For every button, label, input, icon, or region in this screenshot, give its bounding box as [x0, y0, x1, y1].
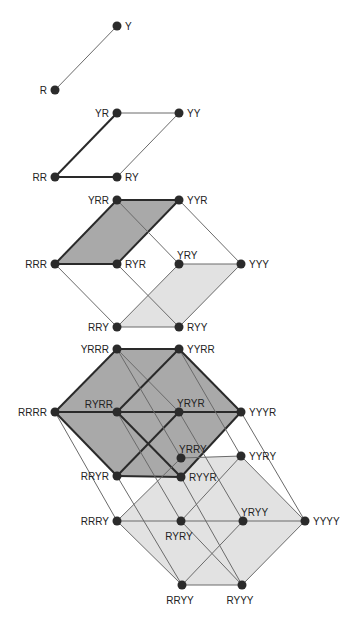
node-label-YRRR: YRRR [81, 344, 109, 355]
node-label-YY: YY [187, 108, 201, 119]
node-YY [175, 109, 184, 118]
node-Y [113, 22, 122, 31]
edge-RR-YR [55, 113, 117, 177]
node-RRYR [113, 472, 122, 481]
node-label-RRRR: RRRR [18, 407, 47, 418]
node-label-YYYR: YYYR [249, 407, 276, 418]
node-RRYY [178, 581, 187, 590]
node-label-YRYY: YRYY [241, 507, 268, 518]
node-RYYY [238, 581, 247, 590]
node-RRRR [51, 408, 60, 417]
node-label-RYYR: RYYR [189, 472, 217, 483]
node-label-Y: Y [125, 21, 132, 32]
node-YYYR [237, 408, 246, 417]
node-label-YYRY: YYRY [249, 451, 276, 462]
node-label-RYRR: RYRR [85, 399, 113, 410]
node-RRY [113, 323, 122, 332]
node-label-RRYY: RRYY [166, 595, 194, 606]
node-YRR [113, 196, 122, 205]
node-label-YYR: YYR [187, 195, 208, 206]
node-RYRY [177, 517, 186, 526]
node-YYYY [301, 517, 310, 526]
node-label-YRYR: YRYR [177, 398, 205, 409]
node-label-YRY: YRY [177, 250, 198, 261]
node-label-YRRY: YRRY [179, 444, 207, 455]
node-RRRY [113, 517, 122, 526]
node-label-YYRR: YYRR [187, 344, 215, 355]
node-label-YYYY: YYYY [313, 516, 340, 527]
face-light [117, 264, 241, 327]
node-YYRR [175, 345, 184, 354]
node-YYY [237, 260, 246, 269]
node-RRR [51, 260, 60, 269]
node-label-RY: RY [125, 172, 139, 183]
node-label-RRY: RRY [88, 322, 109, 333]
edge-R-Y [55, 26, 117, 90]
node-label-RYYY: RYYY [226, 595, 253, 606]
node-label-RYR: RYR [125, 259, 146, 270]
node-R [51, 86, 60, 95]
node-label-RRRY: RRRY [81, 516, 109, 527]
node-RYYR [177, 473, 186, 482]
node-label-RRYR: RRYR [81, 471, 109, 482]
node-label-YRR: YRR [88, 195, 109, 206]
node-label-RYRY: RYRY [165, 531, 193, 542]
node-label-RYY: RYY [187, 322, 208, 333]
node-YYR [175, 196, 184, 205]
edge-RYYR-RRYR [117, 476, 181, 477]
face-dark [55, 200, 179, 264]
edge-RRR-RRY [55, 264, 117, 327]
hypercube-diagram: RYRRRYYRYYRRRRYRYRRYYRRRYRYYYRYYYYRRRRYR… [0, 0, 359, 621]
node-YYRY [237, 452, 246, 461]
node-label-YYY: YYY [249, 259, 269, 270]
node-RY [113, 173, 122, 182]
node-RYR [113, 260, 122, 269]
node-YRRR [113, 345, 122, 354]
node-RYY [175, 323, 184, 332]
node-RR [51, 173, 60, 182]
node-YR [113, 109, 122, 118]
node-label-RR: RR [33, 172, 47, 183]
node-label-R: R [40, 85, 47, 96]
edge-RY-YY [117, 113, 179, 177]
node-RYRR [113, 408, 122, 417]
node-label-RRR: RRR [25, 259, 47, 270]
node-label-YR: YR [95, 108, 109, 119]
